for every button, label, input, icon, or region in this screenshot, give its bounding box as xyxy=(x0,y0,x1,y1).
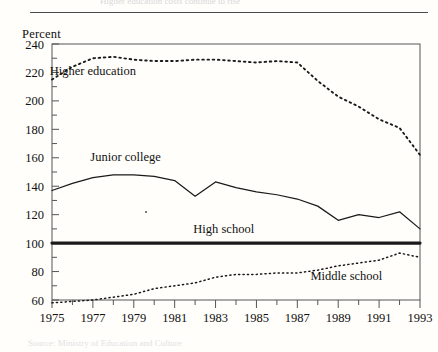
y-axis-tick-label: 120 xyxy=(25,208,44,222)
x-axis-tick-label: 1979 xyxy=(121,311,146,325)
x-axis-tick-label: 1983 xyxy=(203,311,228,325)
series-label-high-school: High school xyxy=(193,222,254,236)
x-axis-tick-label: 1987 xyxy=(285,311,310,325)
x-axis-tick-label: 1989 xyxy=(326,311,351,325)
figure-container: Higher education costs continue to rise … xyxy=(0,0,438,352)
y-axis-tick-label: 80 xyxy=(32,265,45,279)
y-axis-tick-label: 140 xyxy=(25,180,44,194)
x-axis-tick-label: 1975 xyxy=(40,311,65,325)
y-axis-tick-label: 220 xyxy=(25,66,44,80)
y-axis-tick-label: 180 xyxy=(25,123,44,137)
y-axis-tick-label: 60 xyxy=(32,294,45,308)
x-axis-tick-label: 1977 xyxy=(80,311,105,325)
series-label-higher-education: Higher education xyxy=(50,64,137,78)
x-axis-tick-label: 1981 xyxy=(162,311,187,325)
line-chart-plot: 2402202001801601401201008060197519771979… xyxy=(0,0,438,352)
series-label-junior-college: Junior college xyxy=(90,150,161,164)
x-axis-tick-label: 1991 xyxy=(367,311,392,325)
series-label-middle-school: Middle school xyxy=(310,269,382,283)
y-axis-tick-label: 100 xyxy=(25,237,44,251)
y-axis-tick-label: 240 xyxy=(25,38,44,52)
scan-artifact-dot xyxy=(145,211,147,213)
x-axis-tick-label: 1985 xyxy=(244,311,269,325)
y-axis-tick-label: 160 xyxy=(25,151,44,165)
x-axis-tick-label: 1993 xyxy=(408,311,433,325)
y-axis-tick-label: 200 xyxy=(25,94,44,108)
series-line-junior-college xyxy=(52,175,420,229)
